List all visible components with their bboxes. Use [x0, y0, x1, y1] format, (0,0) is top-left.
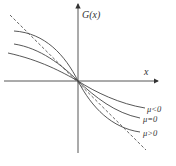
legend-mu-neg: μ<0: [146, 104, 162, 114]
legend-mu-zero: μ=0: [142, 114, 158, 124]
y-axis-label: G(x): [82, 9, 101, 21]
curve-mu-neg: [8, 53, 145, 108]
diagram: G(x) x μ<0 μ=0 μ>0: [0, 0, 176, 166]
curve-mu-pos: [14, 31, 140, 132]
x-axis-label: x: [143, 66, 149, 77]
legend-mu-pos: μ>0: [142, 128, 158, 138]
chart-svg: G(x) x μ<0 μ=0 μ>0: [0, 0, 176, 166]
